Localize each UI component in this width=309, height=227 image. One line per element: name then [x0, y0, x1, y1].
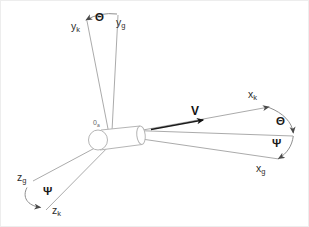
- y-ground-axis-label: yg: [116, 17, 125, 28]
- psi-arc-left: [25, 188, 40, 208]
- y-body-axis-line: [87, 21, 109, 134]
- axes-diagram: yk Θ yg 0a xk V Θ Ψ xg zg Ψ zk: [0, 0, 309, 227]
- theta-angle-label-right: Θ: [276, 116, 285, 128]
- origin-label: 0a: [93, 119, 100, 126]
- velocity-vector-arrow: [151, 120, 203, 130]
- cylinder-left-face: [89, 130, 108, 150]
- theta-angle-label-top: Θ: [95, 12, 104, 24]
- psi-angle-label-right: Ψ: [272, 138, 281, 150]
- cylinder-body: [89, 126, 147, 150]
- velocity-vector-label: V: [191, 105, 199, 117]
- psi-angle-label-left: Ψ: [43, 186, 52, 198]
- x-body-axis-label: xk: [248, 89, 257, 100]
- y-body-axis-label: yk: [71, 21, 80, 32]
- z-body-axis-label: zk: [52, 205, 61, 216]
- z-ground-axis-label: zg: [17, 172, 26, 183]
- y-ground-axis-line: [112, 15, 118, 131]
- horizontal-reference-line: [121, 130, 293, 136]
- x-ground-axis-label: xg: [256, 163, 265, 174]
